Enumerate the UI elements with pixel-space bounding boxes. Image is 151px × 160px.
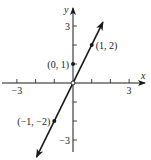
chart: xy−333−3(0, 1)(1, 2)(−1, −2) bbox=[0, 0, 151, 160]
origin-marker bbox=[71, 81, 75, 85]
data-point bbox=[90, 43, 94, 47]
y-axis-label: y bbox=[63, 4, 69, 15]
data-point bbox=[52, 119, 56, 123]
axes bbox=[2, 8, 145, 152]
point-label: (1, 2) bbox=[96, 40, 118, 52]
point-label: (−1, −2) bbox=[17, 116, 50, 128]
x-axis-label: x bbox=[140, 70, 146, 81]
y-tick-label: −3 bbox=[59, 135, 70, 146]
data-point bbox=[71, 62, 75, 66]
y-tick-label: 3 bbox=[65, 21, 70, 32]
point-label: (0, 1) bbox=[47, 59, 69, 71]
x-tick-label: −3 bbox=[12, 85, 23, 96]
x-tick-label: 3 bbox=[127, 85, 132, 96]
labels: xy−333−3(0, 1)(1, 2)(−1, −2) bbox=[12, 4, 146, 146]
